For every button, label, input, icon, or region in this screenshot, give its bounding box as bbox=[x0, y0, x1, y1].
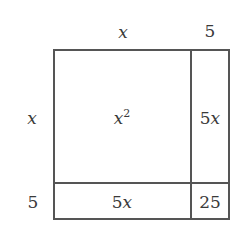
cell-x-squared: x2 bbox=[114, 108, 131, 127]
divider-vertical bbox=[190, 49, 192, 220]
cell-5x-bottom-var: x bbox=[123, 192, 133, 212]
cell-x-squared-exponent: 2 bbox=[123, 107, 130, 120]
cell-5x-bottom: 5x bbox=[112, 194, 132, 211]
cell-5x-right-coef: 5 bbox=[200, 108, 211, 128]
divider-horizontal bbox=[53, 182, 230, 184]
cell-5x-right-var: x bbox=[211, 108, 221, 128]
border-left bbox=[53, 49, 55, 220]
cell-5x-bottom-coef: 5 bbox=[112, 192, 123, 212]
cell-5x-right: 5x bbox=[200, 110, 220, 127]
side-label-x: x bbox=[27, 110, 37, 127]
border-bottom bbox=[53, 218, 230, 220]
border-right bbox=[228, 49, 230, 220]
side-label-5: 5 bbox=[28, 194, 39, 211]
cell-x-squared-base: x bbox=[114, 108, 124, 128]
top-label-x: x bbox=[118, 24, 128, 41]
border-top bbox=[53, 49, 230, 51]
cell-25: 25 bbox=[199, 194, 221, 211]
top-label-5: 5 bbox=[205, 23, 216, 40]
